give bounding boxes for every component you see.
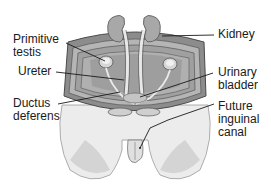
abdominal-wall <box>64 32 206 116</box>
label-kidney: Kidney <box>218 28 255 41</box>
lower-body <box>60 105 210 179</box>
label-future-inguinal-canal: Future inguinal canal <box>218 100 259 139</box>
urinary-bladder <box>123 93 147 103</box>
label-ureter: Ureter <box>18 65 51 78</box>
label-ductus-deferens: Ductus deferens <box>13 97 60 123</box>
label-urinary-bladder: Urinary bladder <box>218 66 258 92</box>
label-primitive-testis: Primitive testis <box>13 33 59 59</box>
